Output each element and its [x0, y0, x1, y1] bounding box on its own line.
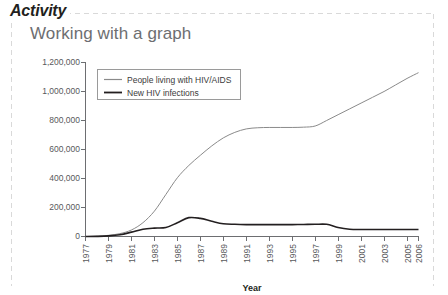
- x-tick-label: 1991: [242, 244, 252, 263]
- y-tick-label: 600,000: [49, 144, 80, 154]
- legend-label: New HIV infections: [127, 88, 199, 98]
- chart-legend: People living with HIV/AIDS New HIV infe…: [98, 70, 241, 100]
- series-line-new-hiv-infections: [86, 217, 419, 236]
- x-tick-label: 1983: [150, 244, 160, 263]
- x-tick-label: 2003: [380, 244, 390, 263]
- x-axis-tick-labels: 1977 1979 1981 1983 1985 1987 1989 1991 …: [81, 244, 424, 263]
- x-tick-label: 2001: [357, 244, 367, 263]
- x-tick-label: 1981: [127, 244, 137, 263]
- x-axis-title: Year: [242, 283, 262, 293]
- y-tick-label: 1,200,000: [42, 57, 80, 67]
- y-axis-tick-labels: 1,200,000 1,000,000 800,000 600,000 400,…: [42, 57, 80, 241]
- x-tick-label: 1985: [173, 244, 183, 263]
- chart-container: 1,200,000 1,000,000 800,000 600,000 400,…: [0, 48, 448, 295]
- x-tick-label: 1989: [219, 244, 229, 263]
- y-tick-label: 200,000: [49, 202, 80, 212]
- x-tick-label: 2006: [414, 244, 424, 263]
- page-title: Working with a graph: [30, 24, 191, 44]
- x-tick-label: 1993: [265, 244, 275, 263]
- line-chart: 1,200,000 1,000,000 800,000 600,000 400,…: [0, 48, 448, 295]
- x-tick-label: 1979: [104, 244, 114, 263]
- activity-label: Activity: [8, 2, 70, 20]
- y-tick-label: 1,000,000: [42, 86, 80, 96]
- x-tick-label: 1997: [311, 244, 321, 263]
- y-tick-label: 400,000: [49, 173, 80, 183]
- x-tick-label: 1977: [81, 244, 91, 263]
- x-tick-label: 1999: [334, 244, 344, 263]
- legend-label: People living with HIV/AIDS: [127, 75, 232, 85]
- y-tick-label: 800,000: [49, 115, 80, 125]
- y-tick-label: 0: [75, 231, 80, 241]
- x-tick-label: 1995: [288, 244, 298, 263]
- x-tick-label: 2005: [403, 244, 413, 263]
- x-axis: [86, 237, 420, 242]
- y-axis: [81, 62, 86, 237]
- panel-border-top: [10, 12, 434, 15]
- x-tick-label: 1987: [196, 244, 206, 263]
